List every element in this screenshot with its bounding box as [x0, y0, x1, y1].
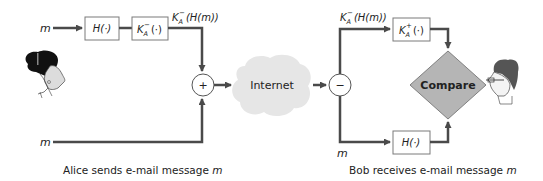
digital-signature-diagram: m H(·) KA−(·) KA−(H(m)) + m Internet − K…	[0, 0, 543, 181]
arrow-m-to-combine	[53, 99, 202, 142]
bob-input-m: m	[337, 147, 348, 160]
alice-input-m-top: m	[40, 22, 51, 35]
alice-avatar-icon	[26, 50, 65, 98]
alice-signed-hash-label: KA−(H(m))	[172, 9, 219, 26]
internet-label: Internet	[250, 79, 294, 92]
bob-signed-hash-label: KA−(H(m))	[340, 9, 387, 26]
plus-icon: +	[198, 79, 207, 92]
bob-caption: Bob receives e-mail message m	[349, 164, 517, 176]
arrow-sign-to-combine	[168, 28, 202, 71]
arrow-split-to-hash	[340, 96, 390, 142]
arrow-verify-to-compare	[430, 29, 448, 48]
alice-hash-label: H(·)	[93, 23, 112, 34]
compare-label: Compare	[420, 79, 475, 92]
alice-input-m-bottom: m	[40, 136, 51, 149]
alice-caption: Alice sends e-mail message m	[63, 164, 223, 176]
internet-cloud: Internet	[232, 55, 311, 116]
minus-icon: −	[335, 79, 344, 92]
bob-hash-label: H(·)	[402, 137, 421, 148]
arrow-split-to-verify	[340, 29, 390, 74]
arrow-hash-to-compare	[430, 122, 448, 142]
bob-avatar-icon	[486, 60, 519, 105]
